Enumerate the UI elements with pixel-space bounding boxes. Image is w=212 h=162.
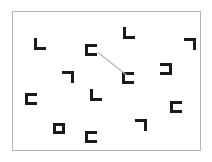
search-item-l[interactable] (123, 27, 135, 39)
search-item-c[interactable] (85, 131, 97, 143)
search-item-c-mirror[interactable] (160, 63, 172, 75)
stroke-top (25, 93, 37, 96)
stroke-bottom (122, 81, 134, 84)
search-item-c[interactable] (25, 93, 37, 105)
stroke-horizontal (90, 98, 102, 101)
search-item-c[interactable] (85, 44, 97, 56)
stroke-vertical (71, 71, 74, 83)
stroke-bottom (53, 131, 65, 134)
stroke-top (170, 101, 182, 104)
search-item-l[interactable] (34, 38, 46, 50)
search-array-border (12, 11, 201, 151)
stroke-horizontal (123, 36, 135, 39)
stimulus-canvas (0, 0, 212, 162)
stroke-bottom (25, 102, 37, 105)
stroke-horizontal (34, 47, 46, 50)
stroke-bottom (160, 72, 172, 75)
stroke-bottom (170, 110, 182, 113)
search-item-rectangle[interactable] (53, 123, 65, 134)
stroke-top (160, 63, 172, 66)
search-item-not-sign[interactable] (135, 119, 147, 131)
stroke-top (53, 123, 65, 126)
stroke-vertical (144, 119, 147, 131)
stroke-top (85, 131, 97, 134)
stroke-bottom (85, 140, 97, 143)
stroke-top (85, 44, 97, 47)
stroke-bottom (85, 53, 97, 56)
stroke-vertical (193, 38, 196, 50)
search-item-not-sign[interactable] (184, 38, 196, 50)
search-item-l[interactable] (90, 89, 102, 101)
search-item-c[interactable] (170, 101, 182, 113)
search-item-not-sign[interactable] (62, 71, 74, 83)
